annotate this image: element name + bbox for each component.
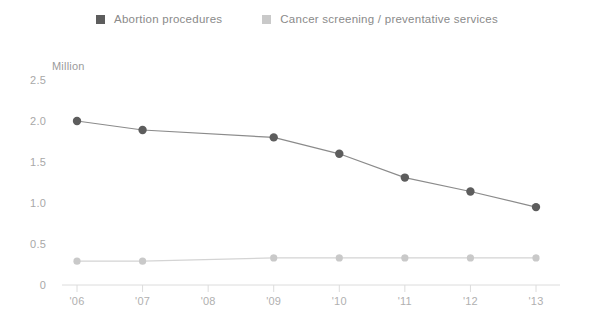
series-line-abortion-procedures (77, 121, 536, 207)
data-point-cancer-11[interactable] (401, 254, 408, 261)
data-point-cancer-12[interactable] (467, 254, 474, 261)
data-point-cancer-10[interactable] (336, 254, 343, 261)
plot-area: Million 00.51.01.52.02.5 '06'07'08'09'10… (0, 0, 594, 334)
data-point-abortion-12[interactable] (466, 187, 474, 195)
series-group (73, 117, 540, 265)
data-point-cancer-13[interactable] (532, 254, 539, 261)
data-point-abortion-09[interactable] (270, 133, 278, 141)
data-point-abortion-06[interactable] (73, 117, 81, 125)
chart-container: Abortion procedures Cancer screening / p… (0, 0, 594, 334)
data-point-abortion-13[interactable] (532, 203, 540, 211)
data-point-cancer-06[interactable] (73, 258, 80, 265)
data-point-abortion-11[interactable] (401, 173, 409, 181)
data-point-abortion-10[interactable] (335, 150, 343, 158)
data-point-cancer-09[interactable] (270, 254, 277, 261)
axis-group (62, 285, 560, 292)
chart-svg (0, 0, 594, 334)
data-point-cancer-07[interactable] (139, 258, 146, 265)
data-point-abortion-07[interactable] (138, 126, 146, 134)
